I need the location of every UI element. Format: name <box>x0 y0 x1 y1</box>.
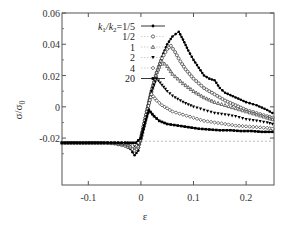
plot-frame <box>62 13 274 185</box>
data-series <box>60 30 274 156</box>
series-2 <box>60 77 274 147</box>
legend-entry: 20 <box>125 73 165 84</box>
legend-label: 1 <box>130 42 135 53</box>
legend-label: 4 <box>130 63 135 74</box>
y-tick-label: 0 <box>55 102 60 113</box>
chart: -0.100.10.2 0.060.040.020-0.02 k1/k2=1/5… <box>0 0 282 227</box>
plot-area: -0.100.10.2 0.060.040.020-0.02 <box>39 8 274 203</box>
x-tick-label: 0.2 <box>240 192 253 203</box>
legend-entry: 1/2 <box>122 31 165 42</box>
x-axis-label: ε <box>143 210 148 222</box>
legend-label: 1/2 <box>122 31 135 42</box>
y-axis-label: σ/σ0 <box>12 101 27 120</box>
series-1-2 <box>61 44 274 152</box>
x-tick-label: 0 <box>138 192 143 203</box>
svg-text:σ/σ0: σ/σ0 <box>12 101 27 120</box>
x-tick-label: -0.1 <box>80 192 96 203</box>
legend-label: 2 <box>130 52 135 63</box>
y-tick-label: 0.06 <box>43 8 61 19</box>
y-tick-label: 0.02 <box>43 71 61 82</box>
series-1 <box>60 60 274 149</box>
legend-entry: 1 <box>130 42 165 53</box>
y-tick-label: 0.04 <box>43 39 61 50</box>
x-tick-label: 0.1 <box>187 192 200 203</box>
legend-label: 20 <box>125 73 135 84</box>
y-tick-label: -0.02 <box>39 133 60 144</box>
